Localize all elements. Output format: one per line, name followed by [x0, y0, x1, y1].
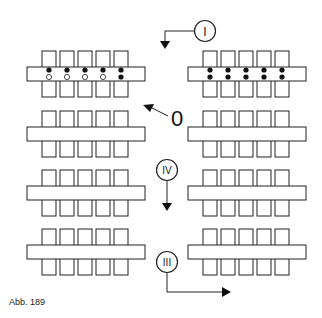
arrow-right-icon — [222, 287, 231, 297]
marker-I: I — [160, 21, 216, 50]
figure-caption: Abb. 189 — [9, 297, 45, 307]
arrow-down-icon — [162, 203, 172, 211]
block-row4-left — [27, 229, 145, 275]
block-row3-left — [27, 170, 145, 216]
marker-III-label: III — [163, 257, 171, 268]
marker-0-label: 0 — [171, 106, 183, 131]
marker-I-label: I — [203, 25, 206, 39]
block-row1-right — [188, 51, 306, 97]
block-row3-right — [188, 170, 306, 216]
marker-IV-label: IV — [162, 165, 172, 176]
switch-diagram: I 0 IV III — [0, 0, 322, 318]
block-row4-right — [188, 229, 306, 275]
block-row2-right — [188, 111, 306, 157]
marker-IV: IV — [157, 160, 178, 212]
block-row2-left — [27, 111, 145, 157]
block-row1-left — [27, 51, 145, 97]
arrow-down-icon — [160, 41, 170, 49]
marker-0: 0 — [143, 104, 183, 131]
